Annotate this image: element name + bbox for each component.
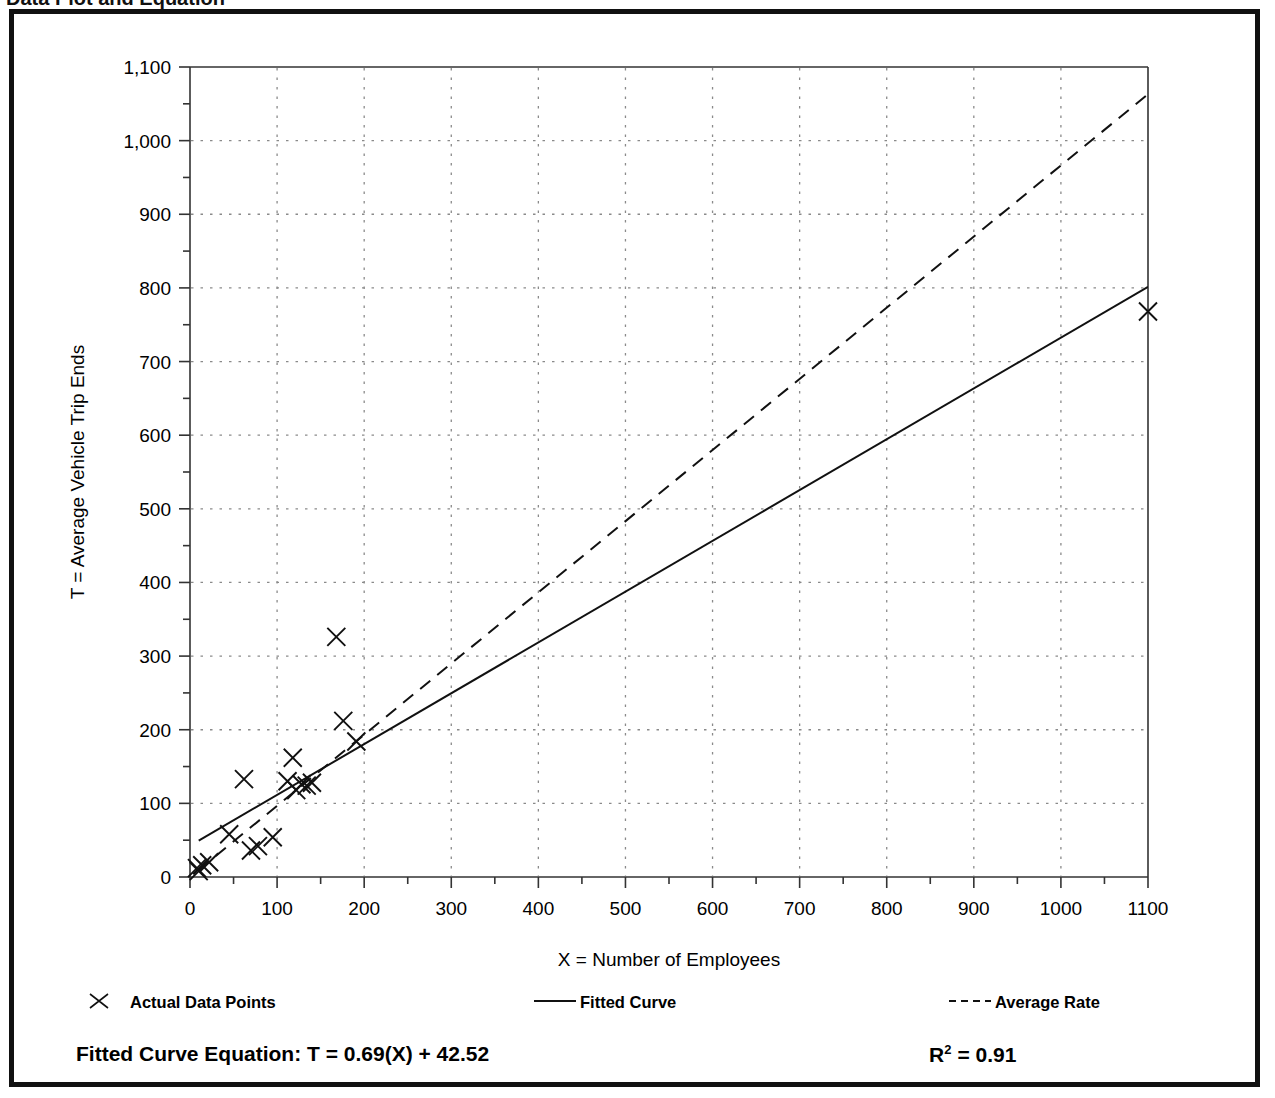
x-tick-label: 200	[348, 898, 380, 919]
legend-label-actual-data-points: Actual Data Points	[130, 993, 276, 1012]
top-caption: Data Plot and Equation	[0, 0, 1275, 9]
x-axis-title: X = Number of Employees	[558, 949, 780, 970]
x-tick-label: 800	[871, 898, 903, 919]
y-tick-label: 500	[139, 499, 171, 520]
legend-label-average-rate: Average Rate	[995, 993, 1100, 1012]
equation-row: Fitted Curve Equation: T = 0.69(X) + 42.…	[14, 1042, 1265, 1092]
x-tick-label: 300	[435, 898, 467, 919]
x-tick-label: 0	[185, 898, 196, 919]
data-point-marker	[235, 770, 253, 788]
r-squared-number: = 0.91	[957, 1043, 1016, 1066]
data-point-marker	[284, 749, 302, 767]
legend-label-fitted-curve: Fitted Curve	[580, 993, 676, 1012]
y-tick-label: 900	[139, 204, 171, 225]
x-axis-tick-labels: 010020030040050060070080090010001100	[185, 898, 1169, 919]
axes-frame	[190, 67, 1148, 877]
data-point-markers	[188, 302, 1157, 880]
y-tick-label: 1,100	[123, 57, 171, 78]
axis-ticks	[179, 67, 1148, 888]
y-tick-label: 800	[139, 278, 171, 299]
y-tick-label: 300	[139, 646, 171, 667]
y-tick-label: 700	[139, 352, 171, 373]
chart-legend: Actual Data Points Fitted Curve Average …	[14, 989, 1265, 1029]
data-point-marker	[327, 628, 345, 646]
x-tick-label: 900	[958, 898, 990, 919]
x-tick-label: 400	[523, 898, 555, 919]
top-caption-text: Data Plot and Equation	[6, 0, 1275, 8]
data-point-marker	[220, 825, 238, 843]
x-marker-icon	[84, 989, 126, 1013]
data-point-marker	[334, 712, 352, 730]
y-tick-label: 100	[139, 793, 171, 814]
data-point-marker	[193, 856, 211, 874]
grid-lines	[191, 68, 1147, 876]
r-squared-symbol: R	[929, 1043, 944, 1066]
y-tick-label: 400	[139, 572, 171, 593]
average-rate-line	[199, 94, 1148, 870]
x-tick-label: 700	[784, 898, 816, 919]
y-tick-label: 600	[139, 425, 171, 446]
solid-line-icon	[534, 989, 576, 1013]
y-axis-tick-labels: 01002003004005006007008009001,0001,100	[123, 57, 171, 888]
scatter-plot: 01002003004005006007008009001,0001,100 0…	[14, 14, 1255, 1082]
y-axis-title: T = Average Vehicle Trip Ends	[67, 345, 88, 599]
y-tick-label: 0	[160, 867, 171, 888]
fitted-curve-equation: Fitted Curve Equation: T = 0.69(X) + 42.…	[76, 1042, 489, 1066]
x-tick-label: 600	[697, 898, 729, 919]
fitted-curve-line	[199, 287, 1148, 841]
x-tick-label: 1100	[1128, 898, 1169, 919]
x-tick-label: 500	[610, 898, 642, 919]
r-squared-exponent: 2	[944, 1042, 951, 1057]
r-squared-value: R2= 0.91	[929, 1042, 1016, 1067]
dashed-line-icon	[949, 989, 991, 1013]
x-tick-label: 100	[261, 898, 293, 919]
x-tick-label: 1000	[1040, 898, 1082, 919]
y-tick-label: 200	[139, 720, 171, 741]
y-tick-label: 1,000	[123, 131, 171, 152]
figure-frame: 01002003004005006007008009001,0001,100 0…	[9, 9, 1260, 1087]
